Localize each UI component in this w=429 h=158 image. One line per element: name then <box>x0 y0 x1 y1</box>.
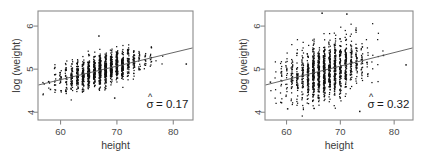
data-point <box>350 62 351 63</box>
data-point <box>133 79 134 80</box>
data-point <box>128 75 129 76</box>
data-point <box>133 64 134 65</box>
data-point <box>313 65 314 66</box>
data-point <box>361 49 362 50</box>
data-point <box>356 56 357 57</box>
data-point <box>285 65 286 66</box>
figure-container: 607080height456log (weight)^σ= 0.17 6070… <box>0 0 429 158</box>
data-point <box>314 39 315 40</box>
data-point <box>329 72 330 73</box>
data-point <box>340 69 341 70</box>
data-point <box>82 89 83 90</box>
data-point <box>307 76 308 77</box>
data-point <box>361 69 362 70</box>
data-point <box>149 56 150 57</box>
data-point <box>111 68 112 69</box>
data-point <box>324 80 325 81</box>
data-point <box>111 50 112 51</box>
data-point <box>297 87 298 88</box>
data-point <box>334 52 335 53</box>
data-point <box>110 52 111 53</box>
data-point <box>42 82 43 83</box>
data-point <box>162 56 163 57</box>
data-point <box>328 74 329 75</box>
data-point <box>99 63 100 64</box>
data-point <box>87 68 88 69</box>
data-point <box>117 58 118 59</box>
sigma-symbol: σ <box>146 98 153 110</box>
data-point <box>122 60 123 61</box>
data-point <box>66 87 67 88</box>
data-point <box>345 65 346 66</box>
data-point <box>128 44 129 45</box>
data-point <box>312 89 313 90</box>
data-point <box>340 72 341 73</box>
data-point <box>307 99 308 100</box>
data-point <box>65 63 66 64</box>
data-point <box>116 70 117 71</box>
data-point <box>111 79 112 80</box>
data-point <box>312 70 313 71</box>
data-point <box>339 84 340 85</box>
data-point <box>297 95 298 96</box>
data-point <box>318 60 319 61</box>
data-point <box>110 65 111 66</box>
data-point <box>313 80 314 81</box>
data-point <box>111 49 112 50</box>
data-point <box>329 52 330 53</box>
data-point <box>275 103 276 104</box>
data-point <box>329 40 330 41</box>
data-point <box>296 74 297 75</box>
data-point <box>144 56 145 57</box>
data-point <box>281 98 282 99</box>
data-point <box>83 75 84 76</box>
data-point <box>286 61 287 62</box>
data-point <box>339 55 340 56</box>
data-point <box>292 86 293 87</box>
data-point <box>123 58 124 59</box>
data-point <box>117 62 118 63</box>
data-point <box>346 78 347 79</box>
data-point <box>335 108 336 109</box>
data-point <box>138 57 139 58</box>
data-point <box>291 84 292 85</box>
data-point <box>355 78 356 79</box>
data-point <box>367 55 368 56</box>
data-point <box>307 81 308 82</box>
data-point <box>82 76 83 77</box>
data-point <box>116 78 117 79</box>
data-point <box>355 80 356 81</box>
data-point <box>324 56 325 57</box>
data-point <box>377 81 378 82</box>
data-point <box>138 66 139 67</box>
data-point <box>110 74 111 75</box>
data-point <box>100 72 101 73</box>
data-point <box>313 54 314 55</box>
data-point <box>351 77 352 78</box>
data-point <box>110 81 111 82</box>
data-point <box>313 90 314 91</box>
data-point <box>121 66 122 67</box>
data-point <box>77 79 78 80</box>
data-point <box>291 67 292 68</box>
data-point <box>61 70 62 71</box>
data-point <box>355 67 356 68</box>
data-point <box>335 70 336 71</box>
data-point <box>106 79 107 80</box>
data-point <box>100 53 101 54</box>
data-point <box>93 61 94 62</box>
y-axis-title: log (weight) <box>10 38 22 92</box>
data-point <box>82 66 83 67</box>
data-point <box>324 75 325 76</box>
data-point <box>340 77 341 78</box>
data-point <box>318 87 319 88</box>
data-point <box>340 83 341 84</box>
data-point <box>329 54 330 55</box>
data-point <box>88 54 89 55</box>
data-point <box>313 85 314 86</box>
data-point <box>303 42 304 43</box>
data-point <box>82 87 83 88</box>
data-point <box>318 101 319 102</box>
data-point <box>329 78 330 79</box>
data-point <box>340 27 341 28</box>
